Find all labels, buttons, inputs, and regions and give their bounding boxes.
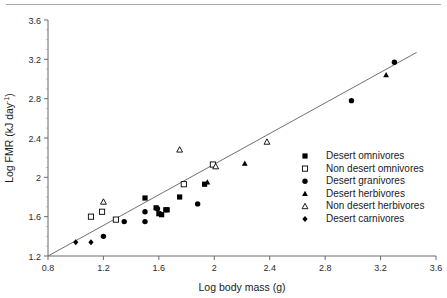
data-point-open-triangle (264, 139, 270, 144)
x-axis-tick-label: 2.8 (319, 263, 332, 273)
y-axis-title-main: Log FMR (kJ day (3, 102, 15, 183)
y-axis-tick-label: 1.2 (28, 252, 41, 262)
data-point-filled-circle (142, 219, 147, 224)
legend-marker-filled-triangle (302, 191, 308, 196)
y-axis-tick-label: 3.6 (28, 16, 41, 26)
data-point-filled-square (165, 207, 170, 212)
x-axis-tick-label: 3.6 (430, 263, 443, 273)
legend-label: Desert granivores (326, 175, 405, 186)
data-point-filled-circle (122, 219, 127, 224)
x-axis-tick-label: 1.6 (153, 263, 166, 273)
data-point-filled-triangle (383, 72, 389, 77)
data-point-filled-circle (349, 98, 354, 103)
data-point-filled-square (177, 194, 182, 199)
y-axis-tick-label: 2.8 (28, 94, 41, 104)
y-axis-tick-label: 2.4 (28, 134, 41, 144)
legend-marker-open-square (302, 166, 307, 171)
legend-marker-open-triangle (302, 203, 308, 208)
data-point-filled-circle (101, 234, 106, 239)
series-desert-omnivores (142, 182, 207, 218)
legend-marker-filled-circle (302, 179, 307, 184)
y-axis-title: Log FMR (kJ day-1) (3, 93, 15, 183)
data-point-filled-circle (392, 60, 397, 65)
legend: Desert omnivoresNon desert omnivoresDese… (302, 150, 424, 224)
x-axis-title: Log body mass (g) (199, 281, 286, 293)
legend-marker-filled-square (302, 153, 307, 158)
chart-figure: 0.81.21.622.42.83.23.61.21.622.42.83.23.… (0, 0, 447, 298)
data-point-open-triangle (177, 147, 183, 152)
x-axis-tick-label: 2.4 (263, 263, 276, 273)
y-axis-tick-label: 3.2 (28, 55, 41, 65)
data-point-open-square (99, 209, 104, 214)
legend-label: Desert carnivores (326, 213, 404, 224)
series-non-desert-omnivores (88, 162, 215, 222)
data-point-filled-circle (155, 206, 160, 211)
data-point-open-square (113, 217, 118, 222)
legend-label: Non desert omnivores (326, 163, 424, 174)
y-axis-tick-label: 2 (36, 173, 41, 183)
legend-marker-filled-diamond (302, 216, 307, 222)
data-point-filled-triangle (242, 160, 248, 165)
data-point-open-triangle (101, 199, 107, 204)
x-axis-tick-label: 3.2 (374, 263, 387, 273)
data-point-filled-square (142, 195, 147, 200)
y-axis-title-tail: ) (3, 93, 15, 97)
y-axis-tick-label: 1.6 (28, 212, 41, 222)
data-point-filled-circle (142, 209, 147, 214)
legend-label: Desert herbivores (326, 188, 405, 199)
x-axis-tick-label: 0.8 (42, 263, 55, 273)
x-axis-tick-label: 2 (212, 263, 217, 273)
series-desert-carnivores (73, 239, 93, 245)
x-axis-tick-label: 1.2 (97, 263, 110, 273)
scatter-plot: 0.81.21.622.42.83.23.61.21.622.42.83.23.… (0, 0, 447, 298)
legend-label: Desert omnivores (326, 150, 404, 161)
data-point-filled-diamond (88, 239, 93, 245)
legend-label: Non desert herbivores (326, 200, 424, 211)
data-point-open-square (88, 214, 93, 219)
data-point-open-square (181, 182, 186, 187)
data-point-filled-circle (195, 201, 200, 206)
series-non-desert-herbivores (101, 139, 270, 204)
data-point-filled-square (159, 212, 164, 217)
